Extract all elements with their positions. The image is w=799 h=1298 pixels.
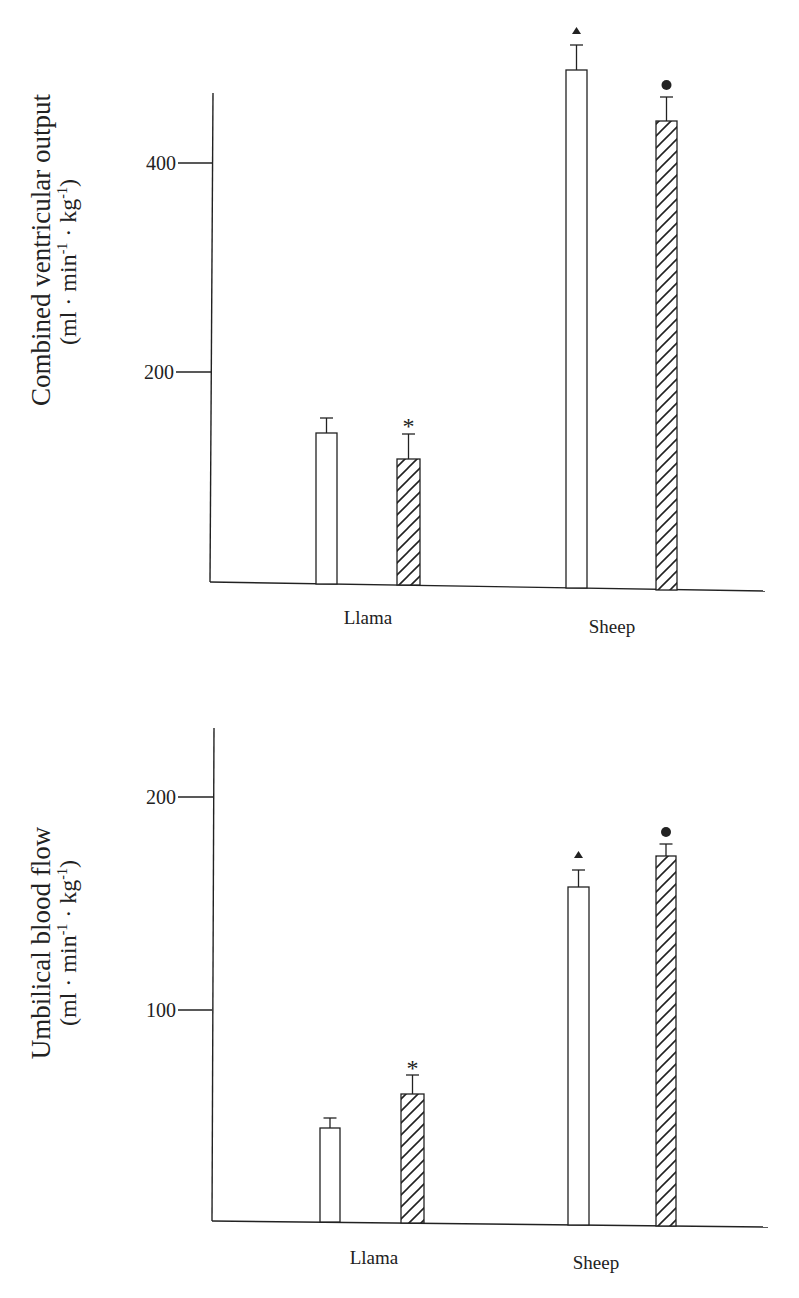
x-category-llama: Llama bbox=[350, 1247, 399, 1268]
x-category-sheep: Sheep bbox=[573, 1252, 619, 1273]
bar-sheep-open bbox=[568, 851, 589, 1225]
chart-combined-ventricular-output: Combined ventricular output (ml · min-1 … bbox=[26, 27, 765, 637]
svg-text:(ml · min-1 · kg-1): (ml · min-1 · kg-1) bbox=[55, 179, 81, 345]
figure: Combined ventricular output (ml · min-1 … bbox=[0, 0, 799, 1298]
asterisk-marker: * bbox=[407, 1055, 419, 1081]
y-axis-title: Umbilical blood flow bbox=[26, 826, 56, 1059]
triangle-marker bbox=[574, 851, 583, 858]
bar-sheep-hatched bbox=[656, 80, 677, 590]
y-axis-label: Combined ventricular output bbox=[26, 94, 56, 406]
units-text: ) bbox=[55, 179, 81, 187]
asterisk-marker: * bbox=[403, 413, 415, 439]
triangle-marker bbox=[572, 27, 581, 34]
bar-llama-open bbox=[316, 418, 337, 584]
units-superscript: -1 bbox=[55, 187, 70, 199]
x-category-sheep: Sheep bbox=[589, 616, 635, 637]
y-axis-units: (ml · min-1 · kg-1) bbox=[55, 179, 81, 345]
circle-marker bbox=[662, 80, 672, 90]
y-tick-label-100: 100 bbox=[146, 999, 176, 1021]
units-text: ) bbox=[55, 860, 81, 868]
x-axis bbox=[210, 582, 765, 591]
y-tick-label-200: 200 bbox=[144, 361, 174, 383]
y-axis bbox=[212, 728, 214, 1221]
x-category-llama: Llama bbox=[344, 607, 393, 628]
bar-sheep-hatched bbox=[656, 827, 676, 1226]
y-axis bbox=[210, 93, 213, 582]
units-superscript: -1 bbox=[55, 243, 70, 255]
y-tick-label-400: 400 bbox=[146, 152, 176, 174]
y-axis-label: Umbilical blood flow bbox=[26, 826, 56, 1059]
units-superscript: -1 bbox=[55, 924, 70, 936]
circle-marker bbox=[661, 827, 671, 837]
svg-text:(ml · min-1 · kg-1): (ml · min-1 · kg-1) bbox=[55, 860, 81, 1026]
y-tick-label-200: 200 bbox=[146, 786, 176, 808]
units-text: · kg bbox=[55, 199, 81, 243]
bar-llama-open bbox=[320, 1118, 340, 1222]
x-axis bbox=[212, 1221, 768, 1227]
units-text: · kg bbox=[55, 880, 81, 924]
y-axis-title: Combined ventricular output bbox=[26, 94, 56, 406]
bar-llama-hatched: * bbox=[397, 413, 420, 585]
bar-llama-hatched: * bbox=[401, 1055, 424, 1223]
chart-umbilical-blood-flow: Umbilical blood flow (ml · min-1 · kg-1)… bbox=[26, 728, 768, 1273]
units-text: (ml · min bbox=[55, 935, 81, 1026]
units-superscript: -1 bbox=[55, 868, 70, 880]
units-text: (ml · min bbox=[55, 254, 81, 345]
bar-sheep-open bbox=[566, 27, 587, 588]
y-axis-units: (ml · min-1 · kg-1) bbox=[55, 860, 81, 1026]
